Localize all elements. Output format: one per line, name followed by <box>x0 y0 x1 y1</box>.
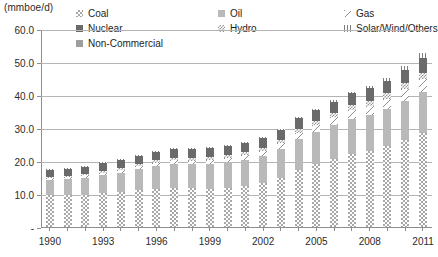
y-axis-unit-caption: (mmboe/d) <box>4 2 53 13</box>
x-tick-1990 <box>49 227 50 231</box>
bar-segment-oil <box>277 149 285 178</box>
legend-item-coal[interactable]: Coal <box>76 9 218 19</box>
bar-slot-2005 <box>307 30 325 227</box>
x-axis-labels: 19901993199619992002200520082011 <box>41 236 432 254</box>
y-tick-label-40: 40.0 <box>0 91 34 102</box>
x-tick-label-1990: 1990 <box>39 236 61 247</box>
bar-1995[interactable] <box>135 155 143 227</box>
bar-segment-nuclear <box>330 102 338 113</box>
x-axis-line <box>41 227 432 228</box>
bar-slot-2004 <box>290 30 308 227</box>
legend-item-gas-swatch-icon <box>344 10 351 17</box>
x-tick-1995 <box>138 227 139 231</box>
bar-slot-2003 <box>272 30 290 227</box>
bar-1993[interactable] <box>99 162 107 227</box>
bar-2002[interactable] <box>259 137 267 227</box>
x-tick-2011 <box>422 227 423 231</box>
bar-segment-coal <box>241 186 249 227</box>
x-tick-2003 <box>280 227 281 231</box>
bar-2001[interactable] <box>241 142 249 227</box>
y-tick-mark-50 <box>37 63 41 64</box>
y-tick-mark-40 <box>37 96 41 97</box>
bar-slot-2006 <box>325 30 343 227</box>
bar-segment-gas <box>401 89 409 101</box>
bar-slot-1993 <box>94 30 112 227</box>
bar-segment-nuclear <box>419 58 427 73</box>
x-tick-label-1996: 1996 <box>145 236 167 247</box>
bar-2008[interactable] <box>366 86 374 227</box>
bar-slot-1991 <box>59 30 77 227</box>
bar-2011[interactable] <box>419 53 427 227</box>
bar-segment-coal <box>64 195 72 227</box>
x-tick-1998 <box>192 227 193 231</box>
x-tick-2008 <box>369 227 370 231</box>
y-tick-label-30: 30.0 <box>0 124 34 135</box>
bar-slot-1992 <box>77 30 95 227</box>
x-tick-1999 <box>209 227 210 231</box>
bar-slot-2000 <box>219 30 237 227</box>
bar-segment-coal <box>348 154 356 227</box>
bar-2005[interactable] <box>312 109 320 227</box>
bar-segment-gas <box>348 110 356 119</box>
legend-item-coal-label: Coal <box>88 9 109 19</box>
bar-segment-nuclear <box>295 118 303 129</box>
bar-slot-1997 <box>165 30 183 227</box>
y-tick-mark-60 <box>37 30 41 31</box>
bar-1997[interactable] <box>170 148 178 227</box>
bar-segment-nuclear <box>206 148 214 157</box>
bar-2010[interactable] <box>401 66 409 227</box>
bar-segment-oil <box>312 132 320 164</box>
bar-segment-oil <box>81 178 89 195</box>
legend-item-oil[interactable]: Oil <box>218 9 344 19</box>
bar-segment-oil <box>64 179 72 195</box>
bar-segment-nuclear <box>117 160 125 168</box>
legend-item-gas[interactable]: Gas <box>344 9 438 19</box>
bar-slot-2009 <box>379 30 397 227</box>
bar-segment-gas <box>330 117 338 125</box>
y-tick-mark-10 <box>37 195 41 196</box>
bar-segment-gas <box>312 125 320 132</box>
legend-item-oil-label: Oil <box>230 9 242 19</box>
x-tick-2010 <box>405 227 406 231</box>
bar-1991[interactable] <box>64 168 72 227</box>
bar-segment-coal <box>312 164 320 227</box>
x-tick-1997 <box>174 227 175 231</box>
bar-segment-coal <box>366 151 374 227</box>
bar-slot-2011 <box>414 30 432 227</box>
bar-segment-oil <box>383 109 391 146</box>
bar-2009[interactable] <box>383 78 391 227</box>
x-tick-2000 <box>227 227 228 231</box>
bar-segment-oil <box>401 101 409 140</box>
bar-segment-nuclear <box>401 70 409 84</box>
bar-segment-coal <box>419 133 427 227</box>
plot-area <box>41 30 432 228</box>
bar-segment-coal <box>383 146 391 227</box>
bar-segment-nuclear <box>152 152 160 160</box>
bar-slot-1990 <box>41 30 59 227</box>
bar-segment-oil <box>419 92 427 132</box>
x-tick-label-1999: 1999 <box>199 236 221 247</box>
bar-2006[interactable] <box>330 100 338 227</box>
bar-1992[interactable] <box>81 166 89 227</box>
bar-slot-2002 <box>254 30 272 227</box>
bar-2000[interactable] <box>224 145 232 227</box>
bar-2004[interactable] <box>295 117 303 227</box>
bar-1994[interactable] <box>117 159 125 227</box>
x-tick-1994 <box>120 227 121 231</box>
bar-1999[interactable] <box>206 147 214 227</box>
y-tick-label-50: 50.0 <box>0 58 34 69</box>
bar-2007[interactable] <box>348 92 356 227</box>
bar-2003[interactable] <box>277 129 285 227</box>
bar-segment-coal <box>117 192 125 227</box>
x-tick-2002 <box>263 227 264 231</box>
x-tick-label-2011: 2011 <box>412 236 434 247</box>
bar-slot-1996 <box>148 30 166 227</box>
bar-segment-oil <box>46 180 54 195</box>
y-tick-mark-0 <box>37 228 41 229</box>
x-tick-label-2002: 2002 <box>252 236 274 247</box>
bar-1990[interactable] <box>46 169 54 227</box>
bar-1996[interactable] <box>152 151 160 227</box>
bar-segment-coal <box>170 188 178 227</box>
legend-item-oil-swatch-icon <box>218 10 225 17</box>
bar-1998[interactable] <box>188 148 196 227</box>
